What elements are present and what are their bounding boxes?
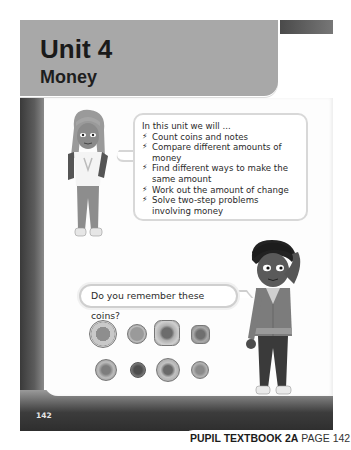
two-pound-coin [89,320,117,348]
lightning-bolt-icon: ⚡ [142,132,152,143]
page-number: 142 [36,411,52,420]
twenty-pence-coin [191,325,210,344]
lightning-bolt-icon: ⚡ [142,185,152,196]
one-pound-coin [127,324,147,344]
list-item: ⚡ Work out the amount of change [142,185,300,196]
list-item: ⚡ Compare different amounts of money [142,142,300,163]
one-penny-coin [130,362,146,378]
footer-page: PAGE 142 [301,432,350,444]
lightning-bolt-icon: ⚡ [142,163,152,184]
ten-pence-coin [95,359,117,381]
question-speech-bubble: Do you remember these coins? [79,284,238,308]
list-item: ⚡ Count coins and notes [142,132,300,143]
page-frame-left [20,98,44,398]
lightning-bolt-icon: ⚡ [142,195,152,216]
two-pence-coin [191,361,209,379]
boy-character [240,238,310,403]
lightning-bolt-icon: ⚡ [142,142,152,163]
list-item: ⚡ Solve two-step problems involving mone… [142,195,300,216]
bubble-lead: In this unit we will ... [142,121,300,132]
book-title: PUPIL TEXTBOOK 2A [190,432,298,444]
girl-character [58,108,118,248]
unit-title: Unit 4 [40,36,112,62]
unit-subtitle: Money [40,68,97,86]
intro-speech-bubble: In this unit we will ... ⚡ Count coins a… [133,113,308,221]
list-item: ⚡ Find different ways to make the same a… [142,163,300,184]
page-frame-corner [280,20,333,34]
fifty-pence-coin [154,320,180,346]
five-pence-coin [156,358,180,382]
footer-label: PUPIL TEXTBOOK 2APAGE 142 [190,432,350,444]
